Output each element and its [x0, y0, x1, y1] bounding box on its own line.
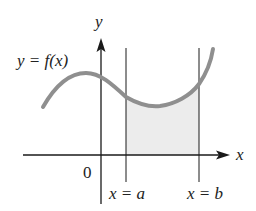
area-under-curve-diagram: y x y = f(x) 0 x = a x = b	[0, 0, 256, 211]
origin-label: 0	[83, 163, 92, 182]
function-label: y = f(x)	[15, 51, 68, 70]
y-axis-label: y	[93, 12, 103, 31]
upper-bound-label: x = b	[186, 184, 223, 203]
diagram-canvas: y x y = f(x) 0 x = a x = b	[0, 0, 256, 211]
lower-bound-label: x = a	[108, 184, 145, 203]
x-axis-label: x	[235, 145, 244, 164]
